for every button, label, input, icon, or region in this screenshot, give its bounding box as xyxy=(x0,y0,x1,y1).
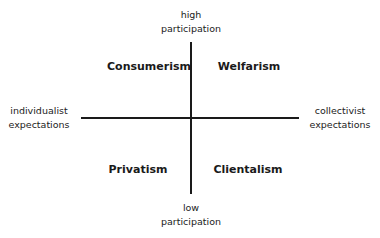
left-axis-label-line1: individualist xyxy=(0,104,78,118)
left-axis-label: individualist expectations xyxy=(0,104,78,132)
left-axis-label-line2: expectations xyxy=(0,118,78,132)
right-axis-label-line2: expectations xyxy=(300,118,380,132)
bottom-axis-label-line1: low xyxy=(141,201,241,215)
quadrant-top-left-label: Consumerism xyxy=(94,60,204,73)
top-axis-label-line2: participation xyxy=(141,22,241,36)
top-axis-label-line1: high xyxy=(141,8,241,22)
bottom-axis-label: low participation xyxy=(141,201,241,229)
right-axis-label-line1: collectivist xyxy=(300,104,380,118)
quadrant-bottom-right-label: Clientalism xyxy=(193,163,303,176)
quadrant-bottom-left-label: Privatism xyxy=(83,163,193,176)
bottom-axis-label-line2: participation xyxy=(141,215,241,229)
top-axis-label: high participation xyxy=(141,8,241,36)
quadrant-top-right-label: Welfarism xyxy=(194,60,304,73)
right-axis-label: collectivist expectations xyxy=(300,104,380,132)
